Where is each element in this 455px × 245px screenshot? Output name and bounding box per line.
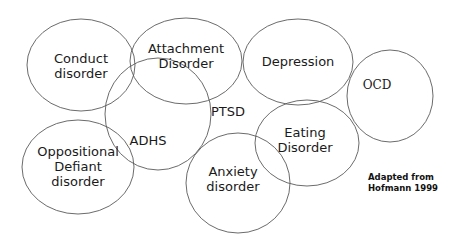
venn-diagram-canvas: ConductdisorderAttachmentDisorderDepress… — [0, 0, 455, 245]
label-line: Depression — [262, 54, 335, 69]
credit-note: Adapted fromHofmann 1999 — [368, 172, 438, 193]
label-line: disorder — [206, 179, 260, 194]
label-line: PTSD — [211, 104, 245, 119]
label-line: Disorder — [158, 56, 214, 71]
label-oppositional-defiant-disorder: OppositionalDefiantdisorder — [37, 144, 119, 189]
label-line: Conduct — [54, 51, 108, 66]
credit-label: Adapted fromHofmann 1999 — [368, 172, 438, 193]
label-conduct-disorder: Conductdisorder — [54, 51, 108, 81]
label-line: disorder — [54, 66, 108, 81]
credit-line: Hofmann 1999 — [368, 183, 438, 193]
label-line: Eating — [284, 125, 325, 140]
ellipse-ocd[interactable] — [347, 50, 433, 142]
label-eating-disorder: EatingDisorder — [277, 125, 333, 155]
label-layer: ConductdisorderAttachmentDisorderDepress… — [37, 41, 391, 194]
label-anxiety-disorder: Anxietydisorder — [206, 164, 260, 194]
label-line: ADHS — [130, 133, 167, 148]
venn-diagram: ConductdisorderAttachmentDisorderDepress… — [0, 0, 455, 245]
label-line: Oppositional — [37, 144, 119, 159]
label-depression: Depression — [262, 54, 335, 69]
label-line: Disorder — [277, 140, 333, 155]
label-line: disorder — [51, 174, 105, 189]
label-line: Anxiety — [208, 164, 258, 179]
label-line: OCD — [363, 78, 392, 92]
ellipse-adhs[interactable] — [105, 58, 211, 170]
label-ocd: OCD — [363, 78, 392, 92]
label-line: Defiant — [54, 159, 102, 174]
label-ptsd: PTSD — [211, 104, 245, 119]
label-line: Attachment — [148, 41, 224, 56]
label-attachment-disorder: AttachmentDisorder — [148, 41, 224, 71]
label-adhs: ADHS — [130, 133, 167, 148]
credit-line: Adapted from — [368, 172, 434, 182]
